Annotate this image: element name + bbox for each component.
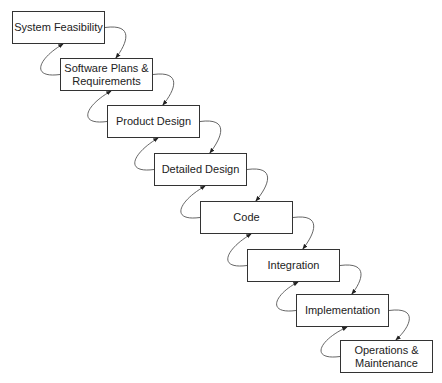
stage-box: Integration (247, 249, 340, 282)
forward-arrow (200, 121, 221, 153)
stage-box: Product Design (107, 105, 200, 138)
feedback-arrow (277, 282, 299, 311)
stage-box: Detailed Design (154, 153, 247, 186)
stage-box: System Feasibility (12, 11, 105, 44)
forward-arrow (340, 265, 361, 294)
stage-box: Software Plans & Requirements (60, 58, 153, 91)
forward-arrow (105, 27, 126, 58)
stage-box: Implementation (296, 294, 389, 327)
stage-box: Code (200, 201, 293, 234)
stage-box: Operations & Maintenance (340, 340, 433, 373)
forward-arrow (389, 310, 409, 340)
forward-arrow (247, 169, 268, 201)
forward-arrow (153, 74, 174, 105)
forward-arrow (293, 217, 314, 249)
